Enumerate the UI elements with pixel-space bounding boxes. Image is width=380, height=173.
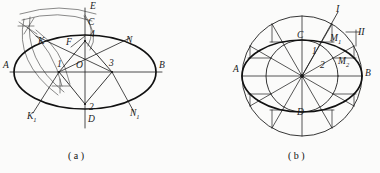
label-a-point-C: C: [88, 18, 94, 28]
label-a-point-K: K: [38, 37, 44, 47]
label-a-point-A: A: [3, 61, 9, 71]
label-b-point-D: D: [297, 108, 304, 118]
label-a-point-1: 1: [57, 60, 62, 70]
segment-F-C: [71, 36, 85, 47]
label-a-point-O: O: [76, 61, 83, 71]
label-a-point-K1-sub: 1: [33, 116, 36, 123]
label-a-point-N1-sub: 1: [136, 113, 139, 120]
marker-4: [84, 40, 86, 42]
label-a-point-F: F: [66, 38, 72, 48]
label-a-point-N: N: [126, 36, 132, 46]
label-a-point-D: D: [88, 115, 95, 125]
label-b-point-2: 2: [320, 61, 325, 71]
marker-3: [111, 71, 113, 73]
marker-2: [84, 103, 86, 105]
label-a-point-B: B: [159, 61, 165, 71]
rhombus-edge-2-1: [59, 72, 85, 104]
label-a-point-4: 4: [90, 30, 95, 40]
label-a-point-N1: N1: [130, 109, 140, 120]
label-b-point-M1: M1: [330, 34, 341, 45]
label-a-point-3: 3: [109, 59, 114, 69]
label-b-point-M2: M2: [338, 57, 349, 68]
caption-b: ( b ): [288, 150, 305, 161]
label-a-point-E: E: [90, 2, 96, 12]
label-b-point-A: A: [233, 65, 239, 75]
construction-arcs-a: [18, 8, 96, 95]
label-b-roman-I: I: [336, 4, 339, 14]
label-b-point-B: B: [365, 69, 371, 79]
figure-canvas: A B C D E O F K K1 N N1 1 2 3 4 A B C D …: [0, 0, 380, 173]
caption-a: ( a ): [68, 150, 84, 161]
label-b-point-C: C: [297, 31, 303, 41]
marker-1: [58, 71, 60, 73]
arc-k-sweep-2: [27, 27, 62, 86]
diagonal-3-K: [36, 36, 112, 72]
label-a-point-K1: K1: [27, 112, 37, 123]
rhombus-edge-4-3: [85, 41, 112, 72]
label-b-point-M1-base: M: [330, 33, 338, 43]
label-b-point-M1-sub: 1: [338, 38, 341, 45]
label-b-point-M2-base: M: [338, 56, 346, 66]
arc-left-sweep: [22, 19, 58, 95]
label-b-point-M2-sub: 2: [346, 61, 349, 68]
rhombus-edge-3-2: [85, 72, 112, 104]
label-a-point-2: 2: [89, 103, 94, 113]
label-b-point-1: 1: [312, 47, 317, 57]
technical-drawing-svg: [0, 0, 380, 173]
center-dot-b: [300, 74, 304, 78]
label-b-roman-II: II: [358, 27, 365, 37]
